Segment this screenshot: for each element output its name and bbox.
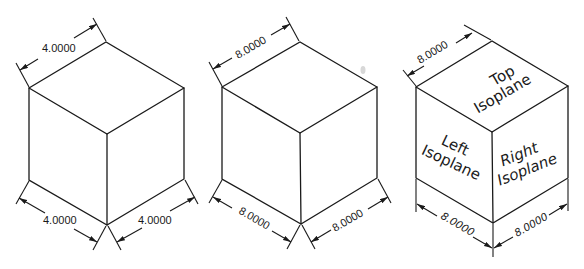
scan-artifact (361, 66, 366, 74)
cube-2: 8.0000 8.0000 8.0000 (209, 17, 391, 249)
cube-3-bottom-left-dim-text: 8.0000 (439, 209, 477, 238)
cube-1-outline (29, 42, 184, 225)
cube-2-bottom-right-dim-text: 8.0000 (330, 207, 365, 234)
cube-3-bottom-right-dim-text: 8.0000 (512, 210, 550, 239)
cube-3: 8.0000 8.0000 8.0000 Top Isoplane Left I… (403, 25, 568, 257)
cube-2-bottom-left-dim-text: 8.0000 (237, 204, 272, 231)
cube-3-top-dim-text: 8.0000 (415, 38, 450, 66)
cube-1-top-dim-text: 4.0000 (42, 42, 76, 54)
cube-2-top-dim-text: 8.0000 (233, 34, 268, 61)
cube-3-outline (416, 41, 568, 223)
cube-2-outline (222, 42, 377, 224)
cube-1-bottom-left-dim-text: 4.0000 (43, 214, 77, 226)
cube-1-bottom-right-dim-text: 4.0000 (138, 214, 172, 226)
cube-1: 4.0000 4.0000 4.0000 (16, 18, 198, 250)
isometric-cubes-diagram: 4.0000 4.0000 4.0000 (0, 0, 584, 269)
